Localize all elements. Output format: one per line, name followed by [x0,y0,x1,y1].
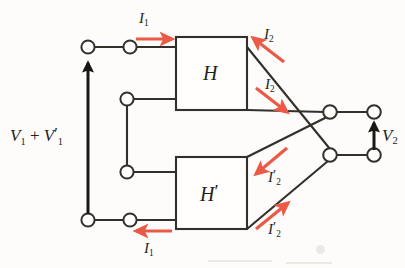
wire-h-upper-output-diagonal [247,47,330,149]
scan-artifact [316,245,325,254]
circuit-diagram-figure: H H′ V1 + V′1 V2 I1 I1 I2 I2 I′2 I′2 [0,0,405,268]
terminal-input-top-inner [123,40,136,53]
current-label-i2-lower: I2 [265,77,275,94]
current-label-i1-top: I1 [139,11,149,28]
terminal-mid-lower [120,165,133,178]
current-label-i2-upper: I2 [264,27,274,44]
terminal-input-top-outer [81,40,94,53]
scan-artifact [208,260,272,262]
block-h-label: H [203,63,217,83]
input-voltage-label: V1 + V′1 [10,126,63,147]
wire-hp-upper-output-diagonal [247,118,325,157]
current-label-i2prime-upper: I′2 [268,168,281,187]
block-h-prime-label: H′ [200,182,219,204]
output-voltage-label: V2 [382,127,398,147]
terminal-input-bottom-inner [123,213,136,226]
current-label-i2prime-lower: I′2 [268,220,281,239]
terminal-input-bottom-outer [81,213,94,226]
terminal-output-inner-top [323,105,337,119]
terminal-mid-upper [120,92,133,105]
terminal-output-inner-bottom [323,148,337,162]
terminal-output-outer-bottom [367,148,381,162]
scan-artifact [286,262,332,264]
terminal-output-outer-top [367,105,381,119]
current-label-i1-bottom: I1 [144,241,154,258]
